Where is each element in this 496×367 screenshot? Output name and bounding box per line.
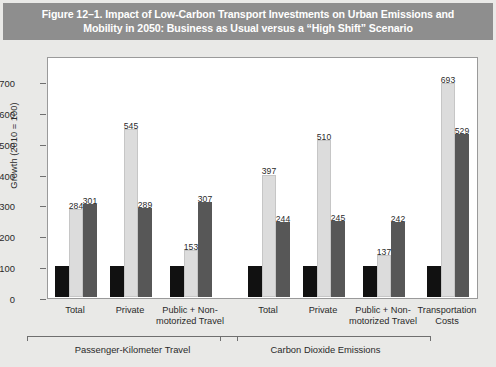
plot-area: 2843015452891533073972445102451372426935… bbox=[47, 57, 478, 299]
bar-value-label: 289 bbox=[138, 200, 152, 210]
bar-5-1 bbox=[377, 255, 391, 297]
y-axis-tick-mark bbox=[40, 83, 46, 84]
bar-2-1 bbox=[184, 250, 198, 297]
bar-value-label: 545 bbox=[124, 121, 138, 131]
bar-value-label: 301 bbox=[83, 196, 97, 206]
bar-0-2 bbox=[83, 204, 97, 297]
figure-title: Figure 12–1. Impact of Low-Carbon Transp… bbox=[33, 8, 463, 35]
bar-4-2 bbox=[331, 221, 345, 297]
y-axis-tick-mark bbox=[40, 268, 46, 269]
bar-6-0 bbox=[427, 266, 441, 297]
bar-value-label: 284 bbox=[69, 201, 83, 211]
y-axis-tick-mark bbox=[40, 206, 46, 207]
bar-5-0 bbox=[363, 266, 377, 297]
group-bracket-label: Carbon Dioxide Emissions bbox=[271, 344, 381, 355]
bar-1-2 bbox=[138, 208, 152, 297]
group-bracket-label: Passenger-Kilometer Travel bbox=[75, 344, 191, 355]
bar-value-label: 153 bbox=[184, 242, 198, 252]
y-axis-tick-label: 200 bbox=[0, 232, 15, 243]
y-axis-tick-mark bbox=[40, 299, 46, 300]
bar-3-0 bbox=[248, 266, 262, 297]
bar-2-0 bbox=[170, 266, 184, 297]
bar-4-0 bbox=[303, 266, 317, 297]
y-axis-tick-label: 600 bbox=[0, 108, 15, 119]
bar-6-2 bbox=[455, 134, 469, 297]
figure-title-band: Figure 12–1. Impact of Low-Carbon Transp… bbox=[3, 3, 493, 40]
bar-6-1 bbox=[441, 83, 455, 297]
bar-value-label: 244 bbox=[276, 214, 290, 224]
bar-value-label: 510 bbox=[317, 132, 331, 142]
y-axis-tick-label: 400 bbox=[0, 170, 15, 181]
bar-0-1 bbox=[69, 209, 83, 297]
bar-value-label: 397 bbox=[262, 166, 276, 176]
y-axis-tick-mark bbox=[40, 114, 46, 115]
bar-value-label: 529 bbox=[455, 126, 469, 136]
bar-value-label: 693 bbox=[441, 75, 455, 85]
bar-0-0 bbox=[55, 266, 69, 297]
y-axis-tick-label: 0 bbox=[0, 294, 15, 305]
x-axis-category-label: Public + Non- motorized Travel bbox=[147, 305, 233, 326]
group-bracket-0 bbox=[27, 336, 238, 341]
bar-3-1 bbox=[262, 175, 276, 298]
y-axis-tick-label: 500 bbox=[0, 139, 15, 150]
y-axis-tick-mark bbox=[40, 237, 46, 238]
bar-4-1 bbox=[317, 140, 331, 297]
y-axis-tick-label: 100 bbox=[0, 263, 15, 274]
figure-container: Figure 12–1. Impact of Low-Carbon Transp… bbox=[0, 0, 496, 367]
bar-3-2 bbox=[276, 222, 290, 297]
bar-5-2 bbox=[391, 222, 405, 297]
bar-1-0 bbox=[110, 266, 124, 297]
y-axis-tick-label: 300 bbox=[0, 201, 15, 212]
bar-value-label: 137 bbox=[377, 247, 391, 257]
bar-value-label: 245 bbox=[331, 213, 345, 223]
bar-2-2 bbox=[198, 202, 212, 297]
y-axis-tick-mark bbox=[40, 176, 46, 177]
y-axis-tick-label: 700 bbox=[0, 78, 15, 89]
bar-1-1 bbox=[124, 129, 138, 297]
y-axis-tick-mark bbox=[40, 145, 46, 146]
bar-value-label: 307 bbox=[198, 194, 212, 204]
bar-value-label: 242 bbox=[391, 214, 405, 224]
plot-inner: 2843015452891533073972445102451372426935… bbox=[48, 58, 477, 298]
x-axis-category-label: Transportation Costs bbox=[404, 305, 490, 326]
group-bracket-1 bbox=[220, 336, 431, 341]
